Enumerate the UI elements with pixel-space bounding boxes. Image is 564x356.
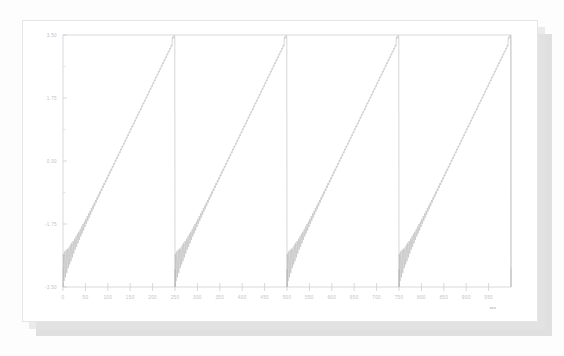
x-tick-label: 200 [148,295,157,300]
x-tick-label: 650 [350,295,359,300]
plot-card: -3.50-1.750.001.753.50 05010015020025030… [22,20,538,322]
sawtooth-line-chart[interactable]: -3.50-1.750.001.753.50 05010015020025030… [23,21,539,323]
x-tick-label: 150 [126,295,135,300]
x-tick-label: 850 [439,295,448,300]
y-axis: -3.50-1.750.001.753.50 [45,33,67,290]
x-tick-label: 450 [260,295,269,300]
x-tick-label: 50 [82,295,88,300]
waveform-line [63,35,511,287]
y-tick-label: -1.75 [45,222,57,227]
y-tick-label: 0.00 [47,159,57,164]
x-tick-label: 800 [417,295,426,300]
y-tick-label: 3.50 [47,33,57,38]
screen-background: -3.50-1.750.001.753.50 05010015020025030… [0,0,564,356]
x-tick-label: 600 [327,295,336,300]
figure-container: -3.50-1.750.001.753.50 05010015020025030… [23,21,539,323]
x-axis: 0501001502002503003504004505005506006507… [62,283,494,300]
x-tick-label: 250 [171,295,180,300]
x-tick-label: 350 [215,295,224,300]
x-tick-label: 400 [238,295,247,300]
x-tick-label: 750 [395,295,404,300]
x-axis-unit-label: ms [490,305,497,310]
x-tick-label: 100 [103,295,112,300]
x-tick-label: 700 [372,295,381,300]
x-tick-label: 950 [484,295,493,300]
x-tick-label: 550 [305,295,314,300]
y-tick-label: -3.50 [45,285,57,290]
x-tick-label: 300 [193,295,202,300]
x-tick-label: 500 [283,295,292,300]
y-tick-label: 1.75 [47,96,57,101]
x-tick-label: 0 [62,295,65,300]
x-tick-label: 900 [462,295,471,300]
